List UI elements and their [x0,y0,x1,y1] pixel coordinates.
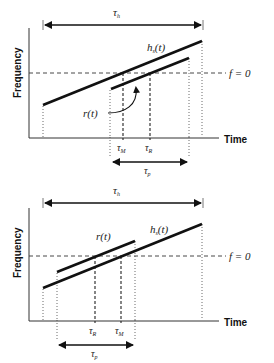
panel-bottom: τh Frequency Time f = 0 hs(t) r(t) τR τM… [12,184,251,360]
signal-hs-label: hs(t) [150,223,169,236]
y-axis-label: Frequency [12,227,23,278]
panel-top: τh Frequency Time f = 0 hs(t) r(t) τM [12,6,251,177]
dotted-guides [43,224,202,341]
marker-tau-r-label: τR [89,325,97,337]
reference-r-label: r(t) [96,230,111,243]
y-axis-label: Frequency [12,47,23,98]
zero-frequency-label: f = 0 [229,67,251,79]
marker-tau-m-label: τM [115,325,125,337]
curved-arrow-icon [108,88,136,113]
span-tau-h-label: τh [113,184,120,197]
signal-hs-label: hs(t) [147,41,166,54]
marker-tau-m-label: τM [117,142,127,154]
chirp-timing-diagram: τh Frequency Time f = 0 hs(t) r(t) τM [0,0,274,363]
span-tau-h-arrow [43,20,203,30]
x-axis-label: Time [224,317,248,328]
span-tau-h-label: τh [113,6,120,19]
span-tau-p-label: τp [144,165,151,177]
marker-tau-r-label: τR [145,142,153,154]
reference-r-label: r(t) [83,107,98,120]
span-tau-h-arrow [43,198,203,208]
span-tau-p-label: τp [91,348,98,360]
x-axis-label: Time [224,134,248,145]
zero-frequency-label: f = 0 [229,250,251,262]
